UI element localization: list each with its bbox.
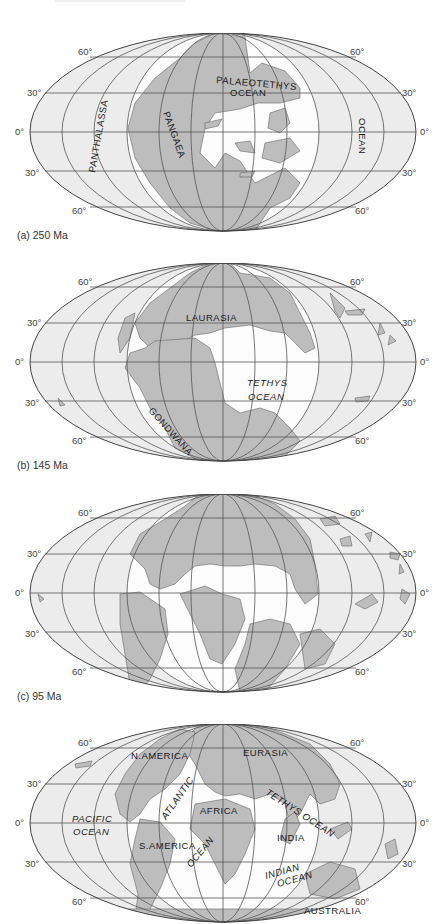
- map-panel-250ma: PANTHALASSA PANGAEA PALAEOTETHYS OCEAN O…: [0, 33, 434, 233]
- label-north-america: N.AMERICA: [131, 750, 188, 761]
- label-laurasia: LAURASIA: [186, 312, 237, 323]
- map-250ma: PANTHALASSA PANGAEA PALAEOTETHYS OCEAN O…: [0, 33, 434, 233]
- label-eurasia: EURASIA: [243, 747, 288, 758]
- caption-c: (c) 95 Ma: [17, 690, 61, 702]
- label-australia: AUSTRALIA: [304, 905, 361, 916]
- map-145ma: LAURASIA TETHYS OCEAN GONDWANA: [0, 263, 434, 463]
- label-palaeotethys-ocean: OCEAN: [230, 87, 266, 98]
- map-panel-present: N.AMERICA EURASIA ATLANTIC TETHYS OCEAN …: [0, 724, 434, 924]
- map-present: N.AMERICA EURASIA ATLANTIC TETHYS OCEAN …: [0, 724, 434, 924]
- map-95ma: [0, 494, 434, 694]
- label-india: INDIA: [277, 832, 305, 843]
- map-panel-145ma: LAURASIA TETHYS OCEAN GONDWANA: [0, 263, 434, 463]
- label-pacific: PACIFIC: [72, 813, 112, 824]
- label-tethys: TETHYS: [247, 377, 288, 388]
- label-pacific-ocean: OCEAN: [73, 826, 109, 837]
- caption-a: (a) 250 Ma: [17, 229, 68, 241]
- label-africa: AFRICA: [200, 805, 238, 816]
- caption-b: (b) 145 Ma: [17, 459, 68, 471]
- cut-off-title: [55, 0, 185, 2]
- label-south-america: S.AMERICA: [139, 840, 196, 851]
- label-ocean-east: OCEAN: [357, 118, 368, 154]
- label-tethys-ocean: OCEAN: [248, 391, 284, 402]
- map-panel-95ma: [0, 494, 434, 694]
